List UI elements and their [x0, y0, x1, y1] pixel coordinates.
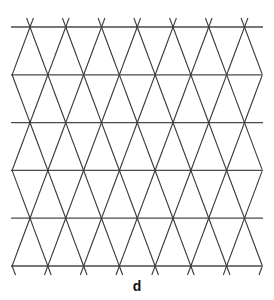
diagonal-line-ascending: [188, 76, 263, 275]
diagonal-line-ascending: [12, 18, 69, 171]
diagonal-line-ascending: [223, 171, 262, 275]
diagonal-line-descending: [205, 18, 262, 169]
diagonal-line-ascending: [80, 18, 176, 275]
diagonal-line-descending: [98, 18, 194, 275]
diagonal-line-descending: [12, 170, 51, 275]
diagonal-line-ascending: [12, 18, 105, 266]
diagonal-line-ascending: [152, 18, 248, 275]
diagonal-line-ascending: [259, 267, 262, 275]
diagonal-line-descending: [27, 18, 123, 275]
diagonal-line-ascending: [45, 18, 141, 275]
diagonal-line-ascending: [116, 18, 212, 275]
diagonal-line-descending: [62, 18, 158, 275]
diagonal-line-descending: [134, 18, 230, 275]
diagonal-line-descending: [12, 75, 87, 276]
figure-caption: d: [0, 278, 274, 294]
diagonal-line-descending: [12, 266, 16, 275]
triangular-lattice-diagram: [0, 0, 274, 300]
diagonal-line-descending: [170, 18, 262, 265]
